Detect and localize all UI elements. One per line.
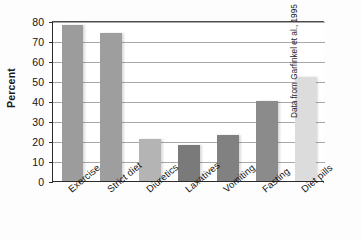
y-axis-tick — [49, 82, 53, 83]
y-axis-tick — [49, 182, 53, 183]
y-axis-tick — [49, 22, 53, 23]
gridline — [53, 22, 325, 23]
plot-area — [52, 22, 324, 182]
y-axis-tick — [49, 42, 53, 43]
y-axis-tick — [49, 122, 53, 123]
y-axis-tick — [49, 62, 53, 63]
y-axis-tick-label: 20 — [4, 136, 44, 148]
y-axis-tick — [49, 162, 53, 163]
y-axis-tick — [49, 102, 53, 103]
gridline — [53, 122, 325, 123]
gridline — [53, 142, 325, 143]
y-axis-tick-label: 10 — [4, 156, 44, 168]
gridline — [53, 102, 325, 103]
y-axis-tick — [49, 142, 53, 143]
bar-chart-figure: Percent 01020304050607080 ExerciseStrict… — [0, 0, 361, 241]
y-axis-tick-label: 70 — [4, 36, 44, 48]
gridline — [53, 82, 325, 83]
y-axis-tick-label: 80 — [4, 16, 44, 28]
gridline — [53, 42, 325, 43]
y-axis-tick-label: 0 — [4, 176, 44, 188]
bar — [62, 25, 84, 181]
y-axis-tick-label: 40 — [4, 96, 44, 108]
y-axis-tick-label: 30 — [4, 116, 44, 128]
source-credit: Data from Garfinkel et al., 1995 — [290, 0, 299, 118]
gridline — [53, 62, 325, 63]
bar — [256, 101, 278, 181]
bar — [100, 33, 122, 181]
y-axis-tick-label: 60 — [4, 56, 44, 68]
y-axis-tick-label: 50 — [4, 76, 44, 88]
